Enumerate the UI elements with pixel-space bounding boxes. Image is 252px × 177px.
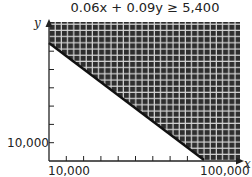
x-ticks [66, 156, 187, 161]
shaded-region [49, 22, 240, 160]
x-axis-label: x [244, 157, 251, 171]
x-tick-label-100000: 100,000 [200, 164, 250, 177]
x-tick-label-10000: 10,000 [48, 164, 90, 177]
y-axis-label: y [33, 16, 41, 30]
chart-plot: 10,000 100,000 10,000 x y [0, 0, 252, 177]
y-ticks [49, 51, 54, 143]
y-tick-label-10000: 10,000 [7, 136, 49, 150]
